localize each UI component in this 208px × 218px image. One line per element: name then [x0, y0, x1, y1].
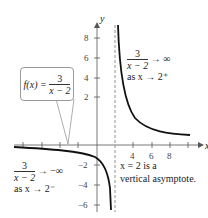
callout-pointer — [56, 99, 74, 144]
right-limit-annotation: 3x − 2 → ∞ as x → 2⁺ — [127, 48, 170, 82]
left-denominator: x − 2 — [14, 172, 35, 183]
y-tick-4: 4 — [84, 73, 89, 83]
right-arrow-text: → ∞ — [151, 53, 171, 64]
asymptote-annotation: x = 2 is a vertical asymptote. — [120, 159, 196, 185]
left-arrow-text: → −∞ — [38, 165, 63, 176]
function-fraction: 3 x − 2 — [49, 73, 70, 96]
right-numerator: 3 — [127, 48, 148, 60]
function-label-box: f(x) = 3 x − 2 — [20, 67, 74, 101]
y-axis-label: y — [100, 13, 104, 24]
x-axis-arrow-icon — [198, 142, 204, 148]
y-tick-8: 8 — [84, 33, 89, 43]
function-numerator: 3 — [49, 73, 70, 85]
left-numerator: 3 — [14, 160, 35, 172]
right-as-text: as x → 2⁺ — [127, 71, 168, 82]
function-lhs: f(x) = — [24, 79, 47, 90]
y-tick-neg2: −2 — [78, 160, 88, 170]
y-tick-neg6: −6 — [78, 200, 88, 210]
function-denominator: x − 2 — [49, 85, 70, 96]
right-denominator: x − 2 — [127, 60, 148, 71]
y-tick-neg4: −4 — [78, 180, 88, 190]
left-as-text: as x → 2⁻ — [14, 183, 55, 194]
asymptote-line1: x = 2 is a — [120, 160, 157, 171]
left-limit-annotation: 3x − 2 → −∞ as x → 2⁻ — [14, 160, 63, 194]
y-tick-6: 6 — [84, 53, 89, 63]
x-axis-label: x — [205, 140, 208, 151]
asymptote-line2: vertical asymptote. — [120, 173, 196, 184]
y-tick-2: 2 — [84, 92, 89, 102]
